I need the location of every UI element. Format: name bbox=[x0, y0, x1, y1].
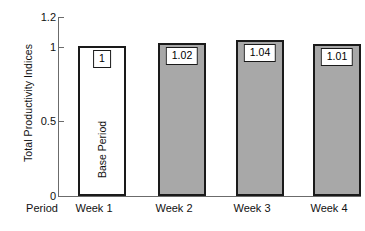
y-axis-title: Total Productivity Indices bbox=[22, 13, 34, 193]
bar-slot-week-1: Base Period 1 bbox=[78, 17, 126, 196]
value-label-week-3: 1.04 bbox=[244, 44, 276, 62]
bar-chart: Total Productivity Indices 1.2 1 0.5 0 B… bbox=[0, 0, 365, 231]
bar-annotation-week-1: Base Period bbox=[97, 121, 108, 178]
bar-week-3[interactable] bbox=[236, 40, 284, 196]
y-tick-label-1: 1 bbox=[50, 42, 56, 53]
y-tick-label-0.5: 0.5 bbox=[41, 116, 56, 127]
bar-week-4[interactable] bbox=[313, 44, 361, 196]
y-tick-mark-0 bbox=[58, 196, 64, 197]
bar-slot-week-4: 1.01 bbox=[313, 17, 361, 196]
y-tick-label-0: 0 bbox=[50, 191, 56, 202]
value-label-week-1: 1 bbox=[93, 50, 111, 68]
x-tick-label-week-3: Week 3 bbox=[212, 202, 292, 214]
plot-area: Base Period 1 1.02 1.04 1.01 bbox=[58, 17, 361, 196]
bar-week-2[interactable] bbox=[158, 43, 206, 196]
x-tick-label-week-1: Week 1 bbox=[54, 202, 134, 214]
x-tick-label-week-2: Week 2 bbox=[134, 202, 214, 214]
value-label-week-4: 1.01 bbox=[321, 48, 353, 66]
bar-week-1[interactable]: Base Period bbox=[78, 46, 126, 196]
x-tick-label-week-4: Week 4 bbox=[289, 202, 365, 214]
x-axis-line bbox=[58, 196, 361, 197]
y-tick-label-1.2: 1.2 bbox=[41, 12, 56, 23]
value-label-week-2: 1.02 bbox=[166, 47, 198, 65]
bar-slot-week-2: 1.02 bbox=[158, 17, 206, 196]
bar-slot-week-3: 1.04 bbox=[236, 17, 284, 196]
